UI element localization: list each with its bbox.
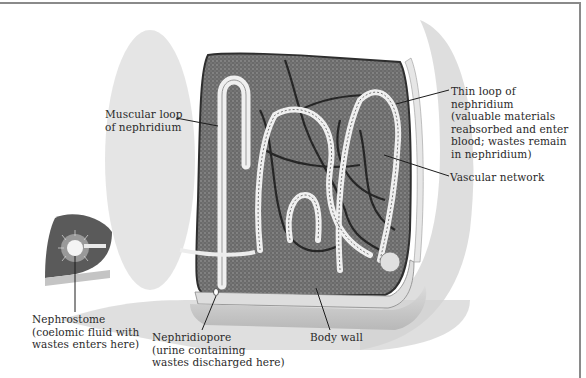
label-line: wastes enters here) <box>32 338 139 350</box>
label-vascular-network: Vascular network <box>450 171 544 184</box>
label-nephridiopore: Nephridiopore (urine containing wastes d… <box>152 331 285 369</box>
nephridiopore-marker <box>214 289 219 296</box>
label-line: nephridium <box>451 98 514 110</box>
adjacent-segment <box>45 214 112 286</box>
label-nephrostome: Nephrostome (coelomic fluid with wastes … <box>32 313 139 351</box>
label-line: of nephridium <box>105 121 181 133</box>
label-line: Muscular loop <box>105 108 183 120</box>
label-line: Vascular network <box>450 171 544 183</box>
segment-cross-section <box>180 54 426 330</box>
label-line: reabsorbed and enter <box>451 123 568 135</box>
label-body-wall: Body wall <box>310 331 363 344</box>
label-line: (urine containing <box>152 344 246 356</box>
label-line: in nephridium) <box>451 148 532 160</box>
label-muscular-loop: Muscular loop of nephridium <box>105 108 183 133</box>
label-thin-loop: Thin loop of nephridium (valuable materi… <box>451 85 568 160</box>
label-line: Thin loop of <box>451 85 516 97</box>
label-line: Body wall <box>310 331 363 343</box>
label-line: blood; wastes remain <box>451 135 567 147</box>
label-line: (coelomic fluid with <box>32 326 139 338</box>
label-line: wastes discharged here) <box>152 356 285 368</box>
nephridium-diagram: Muscular loop of nephridium Thin loop of… <box>0 0 586 378</box>
nephrostome-funnel <box>67 240 83 256</box>
label-line: Nephrostome <box>32 313 105 325</box>
label-line: (valuable materials <box>451 110 555 122</box>
label-line: Nephridiopore <box>152 331 231 343</box>
